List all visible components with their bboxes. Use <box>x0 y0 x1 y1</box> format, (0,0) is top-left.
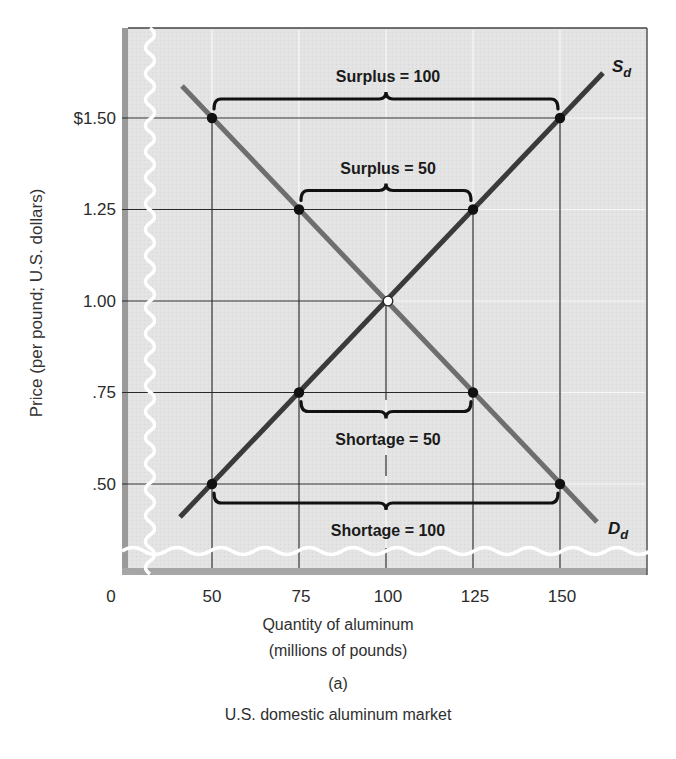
shortage-50-label: Shortage = 50 <box>335 431 440 448</box>
shortage-100-label: Shortage = 100 <box>331 522 445 539</box>
data-point <box>207 479 217 489</box>
data-point <box>468 204 478 214</box>
surplus-100-label: Surplus = 100 <box>336 68 441 85</box>
data-point <box>294 387 304 397</box>
x-tick-label: 75 <box>292 587 311 606</box>
equilibrium-point <box>383 296 393 306</box>
x-tick-label: 50 <box>203 587 222 606</box>
data-point <box>555 113 565 123</box>
chart-canvas: Surplus = 100 Surplus = 50 Shortage = 50… <box>0 0 676 640</box>
y-tick-label: 1.00 <box>83 292 116 311</box>
y-tick-label: .75 <box>92 383 116 402</box>
y-tick-label: .50 <box>92 475 116 494</box>
y-axis-title: Price (per pound; U.S. dollars) <box>27 189 46 418</box>
x-tick-label: 100 <box>374 587 402 606</box>
data-point <box>294 204 304 214</box>
chart-subtitle: U.S. domestic aluminum market <box>0 706 676 724</box>
panel-label: (a) <box>0 675 676 693</box>
x-tick-label: 125 <box>461 587 489 606</box>
x-tick-label: 0 <box>106 587 115 606</box>
x-axis-bar <box>122 568 647 575</box>
x-axis-title-line2: (millions of pounds) <box>0 642 676 660</box>
data-point <box>555 479 565 489</box>
y-tick-label: 1.25 <box>83 200 116 219</box>
surplus-50-label: Surplus = 50 <box>340 160 436 177</box>
x-tick-label: 150 <box>548 587 576 606</box>
y-tick-label: $1.50 <box>73 109 116 128</box>
x-axis-title-line1: Quantity of aluminum <box>0 616 676 634</box>
data-point <box>207 113 217 123</box>
data-point <box>468 387 478 397</box>
